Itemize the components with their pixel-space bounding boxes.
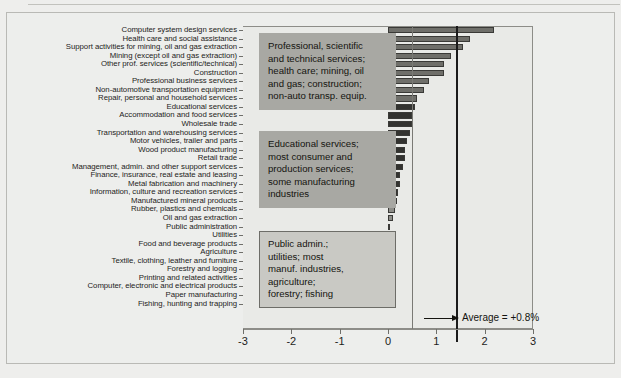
category-tick <box>239 192 243 193</box>
axis-tick-label: -1 <box>335 335 345 347</box>
annotation-line: Public admin.; <box>268 238 387 251</box>
bar <box>388 224 390 230</box>
annotation-group-1: Professional, scientificand technical se… <box>259 33 396 110</box>
average-line <box>456 26 458 342</box>
category-tick <box>239 261 243 262</box>
category-tick <box>239 227 243 228</box>
axis-tick <box>436 329 437 334</box>
axis-tick-label: 2 <box>482 335 488 347</box>
category-tick <box>239 209 243 210</box>
category-label: Fishing, hunting and trapping <box>10 300 241 309</box>
bar <box>388 61 444 67</box>
annotation-line: Educational services; <box>268 138 387 151</box>
average-arrow-icon <box>424 318 458 319</box>
annotation-line: industries <box>268 188 387 201</box>
category-tick <box>239 56 243 57</box>
average-label: Average = +0.8% <box>462 312 539 323</box>
category-tick <box>239 124 243 125</box>
bar-row <box>243 223 533 232</box>
bar <box>388 70 444 76</box>
bar <box>388 53 451 59</box>
category-tick <box>239 218 243 219</box>
annotation-line: and gas; construction; <box>268 78 387 91</box>
bar <box>388 215 393 221</box>
category-tick <box>239 98 243 99</box>
annotation-line: utilities; most <box>268 251 387 264</box>
bar <box>388 112 412 118</box>
annotation-line: some manufacturing <box>268 176 387 189</box>
category-tick <box>239 141 243 142</box>
category-tick <box>239 252 243 253</box>
axis-tick <box>340 329 341 334</box>
annotation-line: non-auto transp. equip. <box>268 90 387 103</box>
category-tick <box>239 175 243 176</box>
annotation-line: forestry; fishing <box>268 288 387 301</box>
top-rule <box>28 4 620 5</box>
category-tick <box>239 47 243 48</box>
annotation-line: agriculture; <box>268 276 387 289</box>
figure-root: Computer system design servicesHealth ca… <box>0 0 621 378</box>
category-tick <box>239 167 243 168</box>
category-tick <box>239 150 243 151</box>
category-tick <box>239 304 243 305</box>
annotation-line: manuf. industries, <box>268 263 387 276</box>
category-tick <box>239 244 243 245</box>
axis-tick <box>533 329 534 334</box>
axis-tick-label: -3 <box>238 335 248 347</box>
axis-tick-label: 1 <box>433 335 439 347</box>
axis-tick <box>291 329 292 334</box>
bar-row <box>243 214 533 223</box>
category-tick <box>239 201 243 202</box>
x-axis: -3-2-10123 <box>243 329 533 359</box>
axis-tick <box>243 329 244 334</box>
category-tick <box>239 295 243 296</box>
category-tick <box>239 39 243 40</box>
annotation-line: production services; <box>268 163 387 176</box>
annotation-line: Professional, scientific <box>268 40 387 53</box>
category-tick <box>239 81 243 82</box>
annotation-line: and technical services; <box>268 53 387 66</box>
category-tick <box>239 64 243 65</box>
category-tick <box>239 90 243 91</box>
category-tick <box>239 73 243 74</box>
category-tick <box>239 286 243 287</box>
zero-axis-line <box>412 26 413 329</box>
category-tick <box>239 269 243 270</box>
bar <box>388 121 412 127</box>
annotation-group-2: Educational services;most consumer andpr… <box>259 131 396 208</box>
category-tick <box>239 115 243 116</box>
annotation-line: most consumer and <box>268 151 387 164</box>
category-tick <box>239 107 243 108</box>
category-tick <box>239 235 243 236</box>
category-tick <box>239 30 243 31</box>
category-label: Public administration <box>10 223 241 232</box>
axis-tick-label: 0 <box>385 335 391 347</box>
annotation-line: health care; mining, oil <box>268 65 387 78</box>
bar <box>388 27 494 33</box>
category-label-column: Computer system design servicesHealth ca… <box>10 26 241 329</box>
bar-row <box>243 111 533 120</box>
category-tick <box>239 133 243 134</box>
axis-tick-label: 3 <box>530 335 536 347</box>
axis-tick <box>388 329 389 334</box>
axis-tick-label: -2 <box>286 335 296 347</box>
axis-tick <box>485 329 486 334</box>
bar <box>388 44 463 50</box>
annotation-group-3: Public admin.;utilities; mostmanuf. indu… <box>259 231 396 308</box>
category-tick <box>239 184 243 185</box>
bar-row <box>243 120 533 129</box>
category-tick <box>239 158 243 159</box>
category-tick <box>239 278 243 279</box>
